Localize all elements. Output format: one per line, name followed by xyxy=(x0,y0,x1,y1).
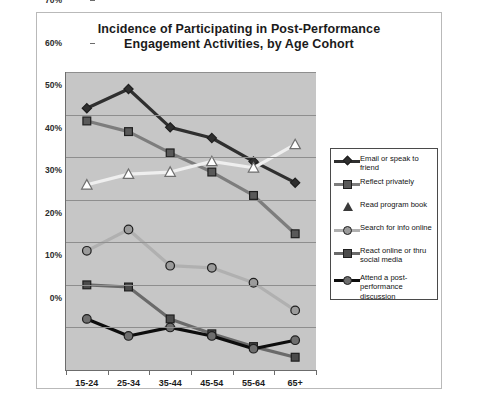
chart-title: Incidence of Participating in Post-Perfo… xyxy=(40,22,438,52)
data-point-marker xyxy=(208,168,216,176)
legend-item[interactable]: Email or speak to friend xyxy=(334,154,437,173)
legend-symbol-circle-icon xyxy=(343,226,352,235)
data-point-marker xyxy=(291,336,300,345)
legend-symbol-diamond-icon xyxy=(343,156,353,166)
series-line xyxy=(87,144,295,184)
data-point-marker xyxy=(166,261,175,270)
gridline xyxy=(66,115,316,116)
data-point-marker xyxy=(124,225,133,234)
y-axis-tick-label: 10% xyxy=(32,250,62,260)
legend-item[interactable]: Reflect privately xyxy=(334,177,437,189)
legend-marker-triangle-icon xyxy=(334,201,360,212)
y-axis-tick-label: 50% xyxy=(32,80,62,90)
data-point-marker xyxy=(83,315,92,324)
data-point-marker xyxy=(208,264,217,273)
x-axis-tick-mark xyxy=(316,370,317,375)
data-point-marker xyxy=(166,315,174,323)
legend-label: Search for info online xyxy=(360,223,437,232)
legend-label: React online or thru social media xyxy=(360,246,437,265)
data-point-marker xyxy=(124,332,133,341)
gridline xyxy=(66,285,316,286)
gridline xyxy=(66,327,316,328)
gridline xyxy=(66,72,316,73)
legend-marker-square-icon xyxy=(334,247,360,258)
legend-symbol-square-icon xyxy=(343,180,352,189)
series-line xyxy=(87,89,295,183)
x-axis-tick-mark xyxy=(108,370,109,375)
y-axis-tick-label: 40% xyxy=(32,123,62,133)
chart-legend: Email or speak to friendReflect privatel… xyxy=(330,148,438,300)
legend-label: Attend a post-performance discussion xyxy=(360,273,437,301)
data-point-marker xyxy=(83,247,92,256)
data-point-marker xyxy=(249,344,258,353)
y-axis-tick-label: 20% xyxy=(32,208,62,218)
x-axis-tick-mark xyxy=(191,370,192,375)
legend-marker-circle-icon xyxy=(334,274,360,285)
y-axis-tick-label: 70% xyxy=(32,0,62,5)
chart-title-line-2: Engagement Activities, by Age Cohort xyxy=(40,37,438,52)
chart-title-line-1: Incidence of Participating in Post-Perfo… xyxy=(98,22,380,36)
y-axis-tick-label: 60% xyxy=(32,38,62,48)
data-point-marker xyxy=(125,128,133,136)
x-axis-tick-mark xyxy=(233,370,234,375)
legend-marker-diamond-icon xyxy=(334,155,360,166)
legend-label: Reflect privately xyxy=(360,177,437,186)
legend-item[interactable]: Search for info online xyxy=(334,223,437,235)
data-point-marker xyxy=(291,353,299,361)
legend-label: Read program book xyxy=(360,200,437,209)
chart-series xyxy=(83,315,300,353)
x-axis-tick-mark xyxy=(66,370,67,375)
data-point-marker xyxy=(166,149,174,157)
legend-item[interactable]: React online or thru social media xyxy=(334,246,437,265)
legend-item[interactable]: Attend a post-performance discussion xyxy=(334,273,437,301)
y-axis-tick-label: 0% xyxy=(32,293,62,303)
y-axis-tick-labels: 0%10%20%30%40%50%60%70% xyxy=(30,0,62,298)
series-line xyxy=(87,319,295,349)
data-point-marker xyxy=(291,230,299,238)
y-axis-tick-mark xyxy=(90,0,95,1)
legend-symbol-triangle-icon xyxy=(343,202,353,211)
legend-marker-circle-icon xyxy=(334,224,360,235)
data-point-marker xyxy=(291,306,300,315)
x-axis-tick-mark xyxy=(149,370,150,375)
gridline xyxy=(66,200,316,201)
series-lines xyxy=(66,72,316,370)
x-axis-tick-label: 65+ xyxy=(265,378,325,388)
legend-label: Email or speak to friend xyxy=(360,154,437,173)
gridline xyxy=(66,242,316,243)
data-point-marker xyxy=(83,117,91,125)
data-point-marker xyxy=(208,332,217,341)
legend-item[interactable]: Read program book xyxy=(334,200,437,212)
plot-area xyxy=(66,72,316,370)
legend-marker-square-icon xyxy=(334,178,360,189)
legend-symbol-square-icon xyxy=(343,249,352,258)
chart-page: Incidence of Participating in Post-Perfo… xyxy=(0,0,480,407)
gridline xyxy=(66,157,316,158)
chart-series xyxy=(83,225,300,314)
data-point-marker xyxy=(250,192,258,200)
data-point-marker xyxy=(290,139,300,148)
y-axis-tick-label: 30% xyxy=(32,165,62,175)
chart-series xyxy=(82,84,300,187)
x-axis-tick-mark xyxy=(274,370,275,375)
legend-symbol-circle-icon xyxy=(343,276,352,285)
y-axis-tick-mark xyxy=(90,43,95,44)
